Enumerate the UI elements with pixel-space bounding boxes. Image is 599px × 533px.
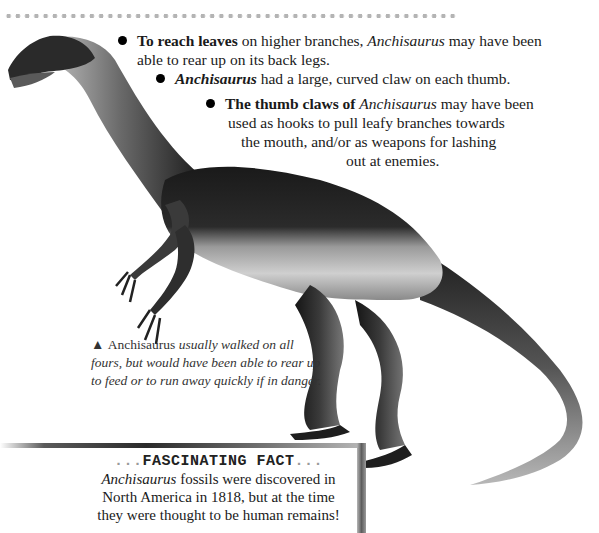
triangle-up-icon: ▲ bbox=[91, 337, 104, 352]
bullet-lead: The thumb claws of bbox=[225, 95, 359, 112]
bullet-dot-icon bbox=[156, 74, 165, 83]
fact-text: North America in 1818, but at the time bbox=[80, 488, 357, 506]
species-name: Anchisaurus bbox=[175, 70, 257, 87]
bullet-text-line: used as hooks to pull leafy branches tow… bbox=[206, 113, 534, 132]
ellipsis: ... bbox=[295, 453, 324, 470]
bullet-text-line: out at enemies. bbox=[206, 151, 534, 170]
species-name: Anchisaurus bbox=[367, 32, 445, 49]
fascinating-fact-box: ...FASCINATING FACT... Anchisaurus fossi… bbox=[80, 443, 366, 533]
caption-text: to feed or to run away quickly if in dan… bbox=[91, 372, 331, 390]
fact-body: Anchisaurus fossils were discovered in N… bbox=[80, 470, 357, 524]
fact-text: fossils were discovered in bbox=[176, 471, 335, 487]
species-name: Anchisaurus bbox=[359, 95, 437, 112]
bullet-text-line: the mouth, and/or as weapons for lashing bbox=[206, 132, 534, 151]
bullet-dot-icon bbox=[118, 36, 127, 45]
bullet-curved-claw: Anchisaurus had a large, curved claw on … bbox=[156, 69, 511, 88]
bullet-text: had a large, curved claw on each thumb. bbox=[257, 70, 511, 87]
bullet-text: may have been bbox=[445, 32, 542, 49]
ellipsis: ... bbox=[114, 453, 143, 470]
species-name: Anchisaurus bbox=[108, 337, 176, 352]
bullet-dot-icon bbox=[206, 99, 215, 108]
fact-title: ...FASCINATING FACT... bbox=[80, 453, 357, 470]
caption-text: usually walked on all bbox=[175, 337, 294, 352]
caption-text: fours, but would have been able to rear … bbox=[91, 354, 331, 372]
illustration-caption: ▲ Anchisaurus usually walked on all four… bbox=[91, 336, 331, 390]
bullet-text: on higher branches, bbox=[238, 32, 368, 49]
bullet-thumb-claws: The thumb claws of Anchisaurus may have … bbox=[206, 94, 534, 170]
species-name: Anchisaurus bbox=[101, 471, 176, 487]
fact-heading: FASCINATING FACT bbox=[142, 453, 294, 470]
bullet-text-line: able to rear up on its back legs. bbox=[118, 50, 542, 69]
bullet-text: may have been bbox=[437, 95, 534, 112]
bullet-reach-leaves: To reach leaves on higher branches, Anch… bbox=[118, 31, 542, 69]
fact-text: they were thought to be human remains! bbox=[80, 506, 357, 524]
bullet-lead: To reach leaves bbox=[137, 32, 238, 49]
